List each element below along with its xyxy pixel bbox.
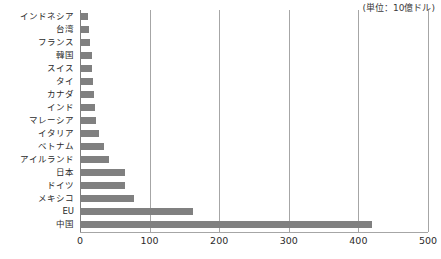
bar-row [80, 114, 428, 127]
category-label: イタリア [38, 127, 74, 140]
x-axis-line [80, 232, 428, 233]
bar [80, 208, 193, 215]
x-tick-label: 0 [77, 235, 83, 246]
category-label: カナダ [47, 88, 74, 101]
category-label: EU [62, 205, 74, 218]
bar [80, 182, 125, 189]
bar-row [80, 218, 428, 231]
category-label: メキシコ [38, 192, 74, 205]
x-axis-tick-labels: 0100200300400500 [80, 235, 428, 251]
category-label: 韓国 [56, 49, 74, 62]
x-tick-label: 500 [419, 235, 437, 246]
x-tick-label: 400 [349, 235, 367, 246]
bar [80, 143, 104, 150]
plot-area [80, 10, 428, 232]
bar [80, 13, 88, 20]
x-tick-label: 300 [280, 235, 298, 246]
bar [80, 156, 109, 163]
bar [80, 52, 92, 59]
bar-series [80, 10, 428, 232]
category-label: 中国 [56, 218, 74, 231]
bar-row [80, 179, 428, 192]
x-tick-label: 200 [210, 235, 228, 246]
category-label: タイ [56, 75, 74, 88]
bar-row [80, 23, 428, 36]
bar [80, 65, 92, 72]
bar-row [80, 62, 428, 75]
bar-row [80, 192, 428, 205]
x-tick-label: 100 [141, 235, 159, 246]
category-label: スイス [47, 62, 74, 75]
bar-row [80, 166, 428, 179]
category-label: インド [47, 101, 74, 114]
bar [80, 130, 99, 137]
bar [80, 195, 134, 202]
bar [80, 221, 372, 228]
category-label: 日本 [56, 166, 74, 179]
bar-row [80, 205, 428, 218]
bar-chart: (単位：10億ドル) インドネシア台湾フランス韓国スイスタイカナダインドマレーシ… [0, 0, 441, 259]
category-label: 台湾 [56, 23, 74, 36]
bar-row [80, 36, 428, 49]
category-label: アイルランド [20, 153, 74, 166]
category-label: ベトナム [38, 140, 74, 153]
bar [80, 78, 93, 85]
category-label: マレーシア [29, 114, 74, 127]
bar-row [80, 153, 428, 166]
bar-row [80, 88, 428, 101]
bar-row [80, 75, 428, 88]
gridline-500 [428, 10, 429, 232]
bar-row [80, 49, 428, 62]
bar [80, 169, 125, 176]
bar [80, 117, 96, 124]
bar [80, 26, 89, 33]
bar-row [80, 101, 428, 114]
bar [80, 39, 90, 46]
category-label: インドネシア [20, 10, 74, 23]
category-label: ドイツ [47, 179, 74, 192]
category-label: フランス [38, 36, 74, 49]
bar [80, 104, 95, 111]
bar-row [80, 127, 428, 140]
bar-row [80, 140, 428, 153]
bar [80, 91, 94, 98]
bar-row [80, 10, 428, 23]
category-axis-labels: インドネシア台湾フランス韓国スイスタイカナダインドマレーシアイタリアベトナムアイ… [0, 10, 78, 232]
